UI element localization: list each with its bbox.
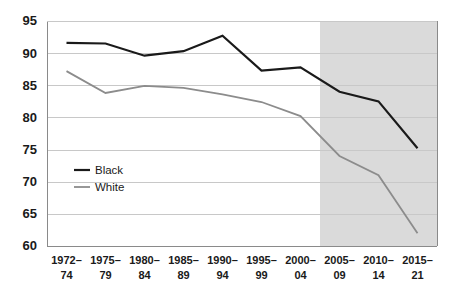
y-tick-label: 80 xyxy=(23,110,37,125)
y-tick-label: 85 xyxy=(23,78,37,93)
line-chart: 6065707580859095 1972–741975–791980–8419… xyxy=(0,0,449,302)
projection-shaded-area xyxy=(320,21,437,246)
x-tick-label-top: 2005– xyxy=(324,254,355,266)
chart-legend: BlackWhite xyxy=(74,164,124,193)
x-tick-label-bottom: 74 xyxy=(60,269,73,281)
y-tick-label: 65 xyxy=(23,206,37,221)
x-tick-label-top: 2000– xyxy=(285,254,316,266)
chart-canvas: 6065707580859095 1972–741975–791980–8419… xyxy=(0,0,449,302)
legend-label-black: Black xyxy=(95,164,123,176)
y-tick-label: 70 xyxy=(23,174,37,189)
x-tick-label-bottom: 79 xyxy=(99,269,111,281)
x-tick-label-bottom: 99 xyxy=(255,269,267,281)
x-tick-label-bottom: 14 xyxy=(372,269,385,281)
x-tick-label-bottom: 94 xyxy=(216,269,229,281)
x-tick-label-top: 1972– xyxy=(51,254,82,266)
x-tick-label-top: 1980– xyxy=(129,254,160,266)
y-tick-label: 90 xyxy=(23,46,37,61)
x-tick-label-bottom: 21 xyxy=(411,269,423,281)
y-axis-tick-labels: 6065707580859095 xyxy=(23,13,37,253)
x-tick-label-bottom: 84 xyxy=(138,269,151,281)
y-tick-label: 95 xyxy=(23,13,37,28)
x-tick-label-bottom: 89 xyxy=(177,269,189,281)
shaded-region-group xyxy=(320,21,437,246)
x-tick-label-top: 1975– xyxy=(90,254,121,266)
x-tick-label-top: 2015– xyxy=(402,254,433,266)
y-tick-label: 60 xyxy=(23,238,37,253)
x-axis-tick-labels: 1972–741975–791980–841985–891990–941995–… xyxy=(51,254,433,281)
x-tick-label-bottom: 04 xyxy=(294,269,307,281)
x-tick-label-top: 1985– xyxy=(168,254,199,266)
legend-label-white: White xyxy=(95,181,124,193)
x-tick-label-top: 1995– xyxy=(246,254,277,266)
y-tick-label: 75 xyxy=(23,142,37,157)
x-tick-label-top: 2010– xyxy=(363,254,394,266)
x-tick-label-top: 1990– xyxy=(207,254,238,266)
x-tick-label-bottom: 09 xyxy=(333,269,345,281)
